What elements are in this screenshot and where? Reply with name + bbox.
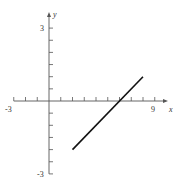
axes xyxy=(14,12,168,174)
x-axis-arrow-icon xyxy=(163,99,168,103)
x-min-tick-label: -3 xyxy=(5,105,12,114)
data-series xyxy=(73,77,144,150)
coordinate-plane: x y -3 9 3 -3 xyxy=(0,0,178,192)
y-min-tick-label: -3 xyxy=(37,170,44,179)
y-axis-arrow-icon xyxy=(47,12,51,17)
x-axis-label: x xyxy=(168,105,173,114)
y-max-tick-label: 3 xyxy=(40,24,44,33)
x-max-tick-label: 9 xyxy=(151,105,155,114)
line-segment xyxy=(73,77,144,150)
y-axis-label: y xyxy=(52,10,57,19)
